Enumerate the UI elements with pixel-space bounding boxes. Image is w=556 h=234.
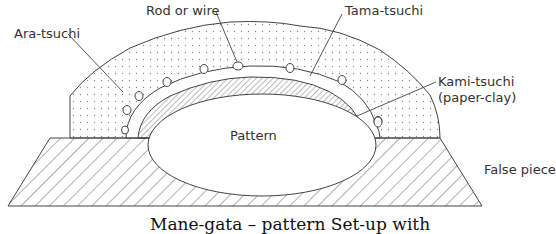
label-kami-tsuchi-sub: (paper-clay) xyxy=(438,90,516,105)
pattern-shape xyxy=(148,94,376,196)
label-rod-or-wire: Rod or wire xyxy=(146,3,220,18)
label-tama-tsuchi: Tama-tsuchi xyxy=(345,3,423,18)
label-false-piece: False piece xyxy=(484,162,556,177)
figure-caption: Mane-gata – pattern Set-up with xyxy=(150,214,430,234)
label-ara-tsuchi: Ara-tsuchi xyxy=(14,26,80,41)
label-kami-tsuchi: Kami-tsuchi xyxy=(438,74,514,89)
label-pattern: Pattern xyxy=(230,128,277,143)
